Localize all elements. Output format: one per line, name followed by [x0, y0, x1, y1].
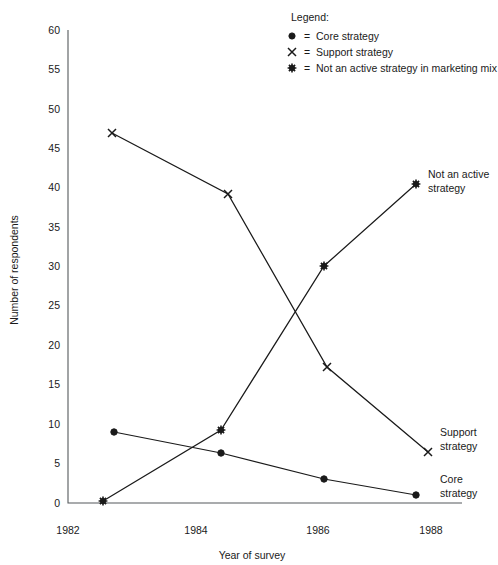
series-end-labels: Not an active strategy Support strategy …: [428, 168, 489, 499]
chart-legend: Legend: = Core strategy = Support strate…: [288, 11, 498, 74]
label-not-active-line1: Not an active: [428, 168, 489, 180]
x-tick-1982: 1982: [56, 524, 80, 536]
line-chart-svg: 60 55 50 45 40 35 30 25 20 15 10 5 0 198…: [0, 0, 498, 565]
y-axis-tick-labels: 60 55 50 45 40 35 30 25 20 15 10 5 0: [48, 24, 60, 509]
core-strategy-line: [114, 432, 416, 495]
series-core-strategy: [111, 429, 419, 498]
y-tick-45: 45: [48, 142, 60, 154]
legend-item-not-active-strategy: = Not an active strategy in marketing mi…: [288, 62, 498, 74]
x-axis-title: Year of survey: [219, 549, 286, 561]
legend-item-core-strategy: = Core strategy: [289, 30, 380, 42]
legend-support-label: Support strategy: [316, 46, 394, 58]
x-axis-tick-labels: 1982 1984 1986 1988: [56, 524, 443, 536]
y-tick-20: 20: [48, 339, 60, 351]
star-icon: [288, 64, 297, 73]
support-strategy-line: [112, 133, 428, 452]
y-tick-10: 10: [48, 418, 60, 430]
y-tick-30: 30: [48, 260, 60, 272]
legend-item-support-strategy: = Support strategy: [288, 46, 394, 58]
x-tick-1988: 1988: [419, 524, 443, 536]
y-tick-35: 35: [48, 221, 60, 233]
y-tick-25: 25: [48, 299, 60, 311]
label-not-active-line2: strategy: [428, 182, 466, 194]
y-axis-title: Number of respondents: [8, 215, 20, 325]
y-tick-5: 5: [54, 457, 60, 469]
legend-not-active-equals: =: [304, 62, 310, 74]
series-not-active-strategy: [99, 180, 421, 506]
x-tick-1986: 1986: [306, 524, 330, 536]
legend-core-label: Core strategy: [316, 30, 380, 42]
label-core-line2: strategy: [440, 487, 478, 499]
legend-support-equals: =: [304, 46, 310, 58]
label-support-line2: strategy: [440, 440, 478, 452]
not-active-strategy-markers: [99, 180, 421, 506]
series-support-strategy: [108, 129, 432, 456]
y-tick-0: 0: [54, 497, 60, 509]
label-support-line1: Support: [440, 426, 477, 438]
y-tick-40: 40: [48, 181, 60, 193]
axis-lines: [68, 30, 462, 503]
x-cross-icon: [288, 48, 296, 56]
label-core-line1: Core: [440, 473, 463, 485]
y-tick-15: 15: [48, 378, 60, 390]
legend-title: Legend:: [291, 11, 329, 23]
legend-not-active-label: Not an active strategy in marketing mix: [316, 62, 498, 74]
chart-container: 60 55 50 45 40 35 30 25 20 15 10 5 0 198…: [0, 0, 498, 565]
filled-circle-icon: [289, 33, 295, 39]
support-strategy-markers: [108, 129, 432, 456]
x-tick-1984: 1984: [184, 524, 208, 536]
legend-core-equals: =: [304, 30, 310, 42]
y-tick-55: 55: [48, 63, 60, 75]
y-tick-60: 60: [48, 24, 60, 36]
y-tick-50: 50: [48, 103, 60, 115]
not-active-strategy-line: [103, 184, 416, 501]
